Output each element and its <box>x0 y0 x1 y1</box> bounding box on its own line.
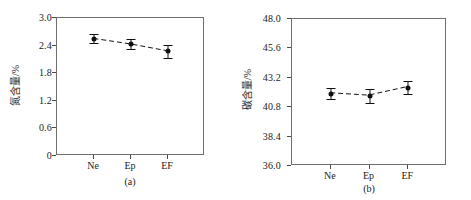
error-bar-cap <box>404 81 413 82</box>
error-bar-cap <box>90 34 99 35</box>
error-bar-cap <box>127 49 136 50</box>
y-tick-label: 1.8 <box>39 67 52 78</box>
y-tick-label: 1.2 <box>39 94 52 105</box>
error-bar-cap <box>127 39 136 40</box>
data-point-marker <box>406 85 411 90</box>
y-tick-mark <box>287 77 291 78</box>
error-bar-cap <box>164 45 173 46</box>
error-bar-cap <box>326 88 335 89</box>
y-tick-mark <box>287 47 291 48</box>
x-tick-label: Ep <box>363 170 374 181</box>
x-tick-label: EF <box>401 170 413 181</box>
x-tick-label: Ep <box>124 160 135 171</box>
error-bar-cap <box>90 43 99 44</box>
y-tick-label: 0.6 <box>39 122 52 133</box>
data-point-marker <box>92 36 97 41</box>
y-tick-mark <box>52 100 56 101</box>
x-tick-mark <box>369 165 370 169</box>
y-tick-mark <box>52 127 56 128</box>
y-tick-mark <box>52 17 56 18</box>
y-tick-mark <box>52 155 56 156</box>
y-tick-mark <box>287 18 291 19</box>
y-tick-mark <box>52 72 56 73</box>
chart-panel-b: 36.038.440.843.245.648.0 碳含量/% NeEpEF (b… <box>235 0 471 200</box>
x-tick-label: Ne <box>87 160 99 171</box>
y-tick-mark <box>52 45 56 46</box>
y-tick-label: 38.4 <box>263 130 281 141</box>
x-tick-mark <box>167 155 168 159</box>
data-point-marker <box>367 94 372 99</box>
plot-area-b <box>292 19 445 164</box>
plot-area-a <box>57 18 203 154</box>
y-axis-title-b: 碳含量/% <box>239 62 254 118</box>
y-axis-tick-labels-a: 00.61.21.82.43.0 <box>18 17 52 155</box>
y-axis-title-a: 氮含量/% <box>7 58 22 114</box>
x-tick-mark <box>330 165 331 169</box>
y-tick-label: 40.8 <box>263 101 281 112</box>
error-bar-cap <box>164 58 173 59</box>
error-bar-cap <box>365 89 374 90</box>
x-tick-mark <box>407 165 408 169</box>
y-tick-mark <box>287 165 291 166</box>
y-tick-label: 2.4 <box>39 39 52 50</box>
plot-frame-b <box>291 18 446 165</box>
panel-caption-a: (a) <box>100 176 160 187</box>
y-tick-label: 48.0 <box>263 13 281 24</box>
figure-root: 00.61.21.82.43.0 氮含量/% NeEpEF (a) 36.038… <box>0 0 471 200</box>
data-point-marker <box>328 91 333 96</box>
x-tick-mark <box>93 155 94 159</box>
chart-panel-a: 00.61.21.82.43.0 氮含量/% NeEpEF (a) <box>0 0 235 200</box>
data-point-marker <box>129 42 134 47</box>
data-point-marker <box>166 49 171 54</box>
y-tick-label: 43.2 <box>263 71 281 82</box>
x-tick-label: Ne <box>324 170 336 181</box>
y-tick-label: 3.0 <box>39 12 52 23</box>
error-bar-cap <box>365 103 374 104</box>
y-tick-mark <box>287 106 291 107</box>
y-tick-mark <box>287 136 291 137</box>
x-tick-mark <box>130 155 131 159</box>
panel-caption-b: (b) <box>339 183 399 194</box>
plot-frame-a <box>56 17 204 155</box>
x-tick-label: EF <box>161 160 173 171</box>
error-bar-cap <box>404 94 413 95</box>
y-tick-label: 45.6 <box>263 42 281 53</box>
y-tick-label: 36.0 <box>263 160 281 171</box>
error-bar-cap <box>326 99 335 100</box>
